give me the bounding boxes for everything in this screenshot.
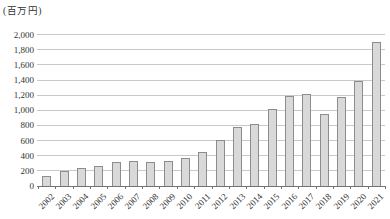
- bar-2003: [60, 171, 69, 186]
- y-tick-label: 2,000: [0, 30, 34, 40]
- y-tick-label: 1,400: [0, 75, 34, 85]
- gridline-1800: [37, 49, 385, 50]
- bar-chart: (百万円) 02004006008001,0001,2001,4001,6001…: [0, 0, 390, 219]
- y-tick-label: 1,800: [0, 45, 34, 55]
- x-axis-tick: [246, 186, 247, 189]
- x-axis-tick: [125, 186, 126, 189]
- bar-2005: [94, 166, 103, 186]
- bar-2020: [354, 81, 363, 186]
- x-axis-tick: [298, 186, 299, 189]
- x-axis-tick: [159, 186, 160, 189]
- y-tick-label: 1,600: [0, 60, 34, 70]
- bar-2021: [372, 42, 381, 186]
- x-axis-tick: [177, 186, 178, 189]
- bar-2016: [285, 96, 294, 186]
- bar-2011: [198, 152, 207, 186]
- x-axis-tick: [142, 186, 143, 189]
- y-tick-label: 1,000: [0, 105, 34, 115]
- x-axis-tick: [333, 186, 334, 189]
- y-tick-label: 0: [0, 181, 34, 191]
- bar-2014: [250, 124, 259, 186]
- x-axis-tick: [55, 186, 56, 189]
- gridline-1000: [37, 110, 385, 111]
- x-axis-tick: [368, 186, 369, 189]
- bar-2006: [112, 162, 121, 186]
- gridline-800: [37, 125, 385, 126]
- bar-2010: [181, 158, 190, 186]
- bar-2017: [302, 94, 311, 186]
- gridline-400: [37, 155, 385, 156]
- x-axis-tick: [281, 186, 282, 189]
- bar-2013: [233, 127, 242, 186]
- y-axis-unit-label: (百万円): [3, 3, 42, 17]
- y-tick-label: 1,200: [0, 90, 34, 100]
- gridline-1400: [37, 80, 385, 81]
- bar-2012: [216, 140, 225, 186]
- x-axis-tick: [350, 186, 351, 189]
- bar-2009: [164, 161, 173, 186]
- y-tick-label: 200: [0, 166, 34, 176]
- x-axis-tick: [73, 186, 74, 189]
- bar-2008: [146, 162, 155, 186]
- x-axis-tick: [264, 186, 265, 189]
- x-axis-tick: [107, 186, 108, 189]
- y-tick-label: 600: [0, 136, 34, 146]
- bar-2019: [337, 97, 346, 186]
- y-tick-label: 400: [0, 151, 34, 161]
- gridline-200: [37, 170, 385, 171]
- x-axis-tick: [38, 186, 39, 189]
- gridline-1600: [37, 64, 385, 65]
- x-axis-tick: [194, 186, 195, 189]
- x-axis-tick: [316, 186, 317, 189]
- bar-2002: [42, 176, 51, 186]
- bar-2018: [320, 114, 329, 186]
- bar-2004: [77, 168, 86, 186]
- gridline-1200: [37, 95, 385, 96]
- gridline-2000: [37, 34, 385, 35]
- y-tick-label: 800: [0, 120, 34, 130]
- x-axis-tick: [385, 186, 386, 189]
- x-axis-tick: [90, 186, 91, 189]
- x-axis-tick: [229, 186, 230, 189]
- bar-2007: [129, 161, 138, 186]
- bar-2015: [268, 109, 277, 186]
- x-axis-tick: [212, 186, 213, 189]
- gridline-600: [37, 140, 385, 141]
